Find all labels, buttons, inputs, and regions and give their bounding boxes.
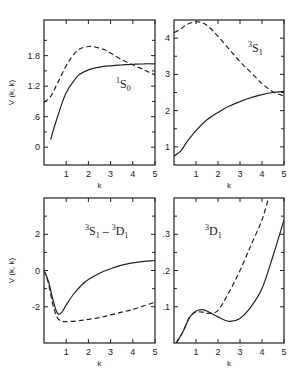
y-tick-label: .3 (162, 229, 170, 239)
partial-wave-label: 3S1 – 3D1 (85, 223, 128, 240)
x-tick-label: 1 (64, 347, 69, 357)
y-tick-label: 4 (165, 33, 170, 43)
x-axis-label: k (98, 359, 103, 368)
figure: 123450.61.21.8kV (k, k)1S0123451234k3S11… (0, 0, 299, 380)
y-tick-label: 0 (35, 142, 40, 152)
x-tick-label: 4 (259, 169, 264, 179)
series-dashed-line (44, 271, 155, 322)
series-dashed-line (176, 198, 268, 343)
x-axis-label: k (227, 359, 232, 368)
plot-frame (174, 20, 284, 165)
x-tick-label: 2 (215, 347, 220, 357)
x-tick-label: 5 (152, 347, 157, 357)
series-solid-line (174, 91, 284, 155)
plot-frame (44, 198, 155, 343)
y-tick-label: 1.2 (27, 81, 40, 91)
plot-frame (44, 20, 155, 165)
y-tick-label: .1 (162, 302, 170, 312)
x-tick-label: 4 (259, 347, 264, 357)
series-solid-line (44, 261, 155, 315)
x-tick-label: 3 (108, 169, 113, 179)
y-tick-label: 1 (165, 142, 170, 152)
y-tick-label: 0 (35, 266, 40, 276)
partial-wave-label: 3D1 (205, 223, 222, 240)
y-tick-label: .2 (162, 266, 170, 276)
y-axis-label: V (k, k) (7, 80, 16, 106)
x-tick-label: 3 (237, 169, 242, 179)
panel-top-right: 123451234k3S1 (165, 20, 287, 190)
panel-bottom-left: 12345-202kV (k, k)3S1 – 3D1 (7, 198, 158, 368)
y-tick-label: 2 (35, 229, 40, 239)
y-tick-label: .6 (32, 112, 40, 122)
x-tick-label: 2 (86, 347, 91, 357)
series-solid-line (51, 64, 155, 140)
y-axis-label: V (k, k) (7, 258, 16, 284)
x-tick-label: 3 (108, 347, 113, 357)
y-tick-label: -2 (32, 302, 40, 312)
partial-wave-label: 1S0 (116, 76, 131, 93)
x-tick-label: 1 (193, 169, 198, 179)
panel-bottom-right: 12345.1.2.3k3D1 (162, 198, 286, 368)
series-dashed-line (44, 46, 155, 102)
x-tick-label: 5 (281, 347, 286, 357)
partial-wave-label: 3S1 (248, 40, 263, 57)
x-tick-label: 2 (215, 169, 220, 179)
panel-top-left: 123450.61.21.8kV (k, k)1S0 (7, 20, 158, 190)
x-tick-label: 1 (64, 169, 69, 179)
y-tick-label: 1.8 (27, 51, 40, 61)
x-tick-label: 1 (193, 347, 198, 357)
series-solid-line (176, 220, 284, 343)
x-tick-label: 2 (86, 169, 91, 179)
x-tick-label: 5 (281, 169, 286, 179)
x-tick-label: 4 (130, 169, 135, 179)
x-axis-label: k (98, 181, 103, 190)
x-tick-label: 4 (130, 347, 135, 357)
y-tick-label: 2 (165, 106, 170, 116)
y-tick-label: 3 (165, 69, 170, 79)
series-dashed-line (174, 22, 284, 96)
x-axis-label: k (227, 181, 232, 190)
x-tick-label: 5 (152, 169, 157, 179)
x-tick-label: 3 (237, 347, 242, 357)
